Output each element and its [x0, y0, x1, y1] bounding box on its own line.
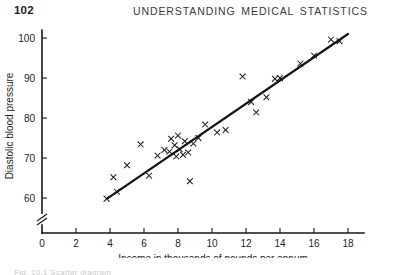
y-tick-label-80: 80	[24, 113, 36, 124]
x-tick-label-4: 4	[107, 238, 113, 249]
scatter-figure: 60708090100 024681012141618 Income in th…	[0, 18, 397, 258]
x-tick-label-16: 16	[308, 238, 320, 249]
data-point	[186, 150, 191, 155]
y-axis-label: Diastolic blood pressure	[4, 72, 15, 179]
x-axis-label: Income in thousands of pounds per annum	[118, 253, 308, 258]
y-tick-label-70: 70	[24, 153, 36, 164]
data-point	[169, 136, 174, 141]
y-tick-label-90: 90	[24, 73, 36, 84]
data-point	[111, 175, 116, 180]
x-tick-label-6: 6	[141, 238, 147, 249]
x-tick-label-0: 0	[39, 238, 45, 249]
y-tick-label-60: 60	[24, 193, 36, 204]
data-point	[215, 130, 220, 135]
data-point	[147, 173, 152, 178]
regression-line	[107, 34, 348, 198]
book-page: 102 UNDERSTANDING MEDICAL STATISTICS 607…	[0, 0, 397, 275]
axis-break-icon-second	[37, 218, 47, 225]
data-point	[254, 110, 259, 115]
x-tick-label-14: 14	[274, 238, 286, 249]
x-tick-label-12: 12	[240, 238, 252, 249]
data-point	[124, 163, 129, 168]
data-point	[172, 143, 177, 148]
data-point	[138, 142, 143, 147]
data-point	[187, 179, 192, 184]
x-tick-label-18: 18	[342, 238, 354, 249]
data-point	[175, 133, 180, 138]
data-point	[162, 147, 167, 152]
axis-break-icon	[37, 214, 47, 221]
data-point	[155, 153, 160, 158]
running-head: UNDERSTANDING MEDICAL STATISTICS	[133, 5, 368, 17]
scatter-plot-svg: 60708090100 024681012141618 Income in th…	[0, 18, 397, 258]
page-number: 102	[14, 4, 34, 16]
y-tick-label-100: 100	[18, 33, 35, 44]
data-point	[174, 154, 179, 159]
data-point	[223, 127, 228, 132]
x-tick-label-2: 2	[73, 238, 79, 249]
figure-caption-stub: Fig. 10.1 Scatter diagram	[14, 268, 194, 275]
data-point	[240, 74, 245, 79]
data-point	[328, 37, 333, 42]
x-axis-ticks: 024681012141618	[39, 228, 354, 249]
data-point	[264, 95, 269, 100]
data-point	[203, 122, 208, 127]
data-point	[272, 76, 277, 81]
x-tick-label-8: 8	[175, 238, 181, 249]
x-tick-label-10: 10	[206, 238, 218, 249]
data-point	[181, 152, 186, 157]
